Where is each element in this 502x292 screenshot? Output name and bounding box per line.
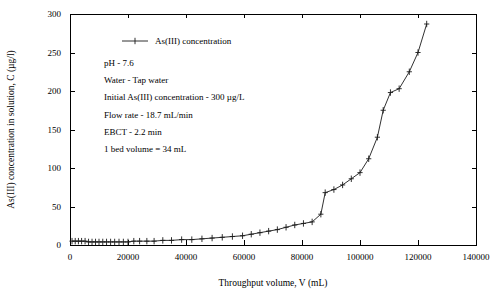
annotation-line-5: EBCT - 2.2 min [104,127,162,137]
x-axis-tick-label: 120000 [405,252,433,262]
y-axis-tick-label: 0 [57,240,62,250]
x-axis-tick-label: 100000 [347,252,375,262]
y-axis-tick-label: 50 [52,202,62,212]
x-axis-tick-label: 140000 [463,252,491,262]
x-axis-tick-label: 40000 [175,252,198,262]
y-axis-tick-label: 250 [48,48,62,58]
x-axis-tick-label: 60000 [233,252,256,262]
annotation-line-3: Initial As(III) concentration - 300 µg/L [104,92,244,102]
annotation-line-1: pH - 7.6 [104,58,134,68]
chart-figure: 0200004000060000800001000001200001400000… [0,0,502,292]
y-axis-title: As(III) concentration in solution, C (µg… [6,50,17,209]
x-axis-tick-label: 80000 [291,252,314,262]
x-axis-tick-label: 20000 [117,252,140,262]
y-axis-tick-label: 150 [48,125,62,135]
x-axis-title: Throughput volume, V (mL) [219,278,328,289]
x-axis-tick-label: 0 [68,252,73,262]
annotation-line-2: Water - Tap water [104,75,168,85]
breakthrough-curve-chart: 0200004000060000800001000001200001400000… [0,0,502,292]
y-axis-tick-label: 100 [48,163,62,173]
annotation-line-6: 1 bed volume = 34 mL [104,144,186,154]
y-axis-tick-label: 200 [48,86,62,96]
y-axis-tick-label: 300 [48,9,62,19]
annotation-line-4: Flow rate - 18.7 mL/min [104,110,193,120]
legend-entry-label: As(III) concentration [155,36,232,46]
